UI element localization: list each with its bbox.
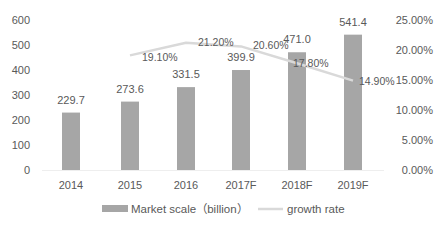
x-axis-tick: 2016 <box>174 179 198 191</box>
legend-bar-label: Market scale（billion） <box>131 203 248 215</box>
legend-bar-swatch <box>102 205 128 212</box>
bar-2018F <box>288 52 306 170</box>
bar-value-label: 399.9 <box>227 51 255 63</box>
left-axis-tick: 300 <box>12 89 30 101</box>
left-axis-tick: 500 <box>12 39 30 51</box>
right-axis-tick: 0.00% <box>402 164 433 176</box>
line-value-label: 14.90% <box>359 75 395 87</box>
bar-value-label: 331.5 <box>172 68 200 80</box>
right-axis-tick: 5.00% <box>402 134 433 146</box>
bar-value-label: 273.6 <box>116 83 144 95</box>
right-axis-tick: 15.00% <box>396 74 434 86</box>
bar-value-label: 229.7 <box>57 94 85 106</box>
x-axis-tick: 2015 <box>118 179 142 191</box>
right-axis-tick: 25.00% <box>396 14 434 26</box>
bar-2017F <box>232 70 250 170</box>
right-axis-tick: 20.00% <box>396 44 434 56</box>
line-value-label: 19.10% <box>142 51 178 63</box>
left-axis-tick: 600 <box>12 14 30 26</box>
left-axis: 0100200300400500600 <box>12 14 30 176</box>
left-axis-tick: 0 <box>24 164 30 176</box>
line-value-label: 21.20% <box>198 36 234 48</box>
legend: Market scale（billion） growth rate <box>102 203 345 215</box>
x-axis-tick: 2014 <box>59 179 83 191</box>
combo-chart: 0100200300400500600 0.00%5.00%10.00%15.0… <box>0 0 438 229</box>
right-axis: 0.00%5.00%10.00%15.00%20.00%25.00% <box>396 14 434 176</box>
right-axis-tick: 10.00% <box>396 104 434 116</box>
x-axis: 2014201520162017F2018F2019F <box>59 179 369 191</box>
line-value-label: 20.60% <box>253 39 289 51</box>
legend-line-label: growth rate <box>287 203 345 215</box>
left-axis-tick: 400 <box>12 64 30 76</box>
left-axis-tick: 100 <box>12 139 30 151</box>
x-axis-tick: 2018F <box>281 179 312 191</box>
x-axis-tick: 2019F <box>337 179 368 191</box>
line-value-label: 17.80% <box>293 57 329 69</box>
x-axis-tick: 2017F <box>225 179 256 191</box>
left-axis-tick: 200 <box>12 114 30 126</box>
bar-2019F <box>344 35 362 170</box>
bar-value-label: 541.4 <box>339 16 367 28</box>
bar-2015 <box>121 102 139 170</box>
bar-2014 <box>62 113 80 170</box>
bar-2016 <box>177 87 195 170</box>
